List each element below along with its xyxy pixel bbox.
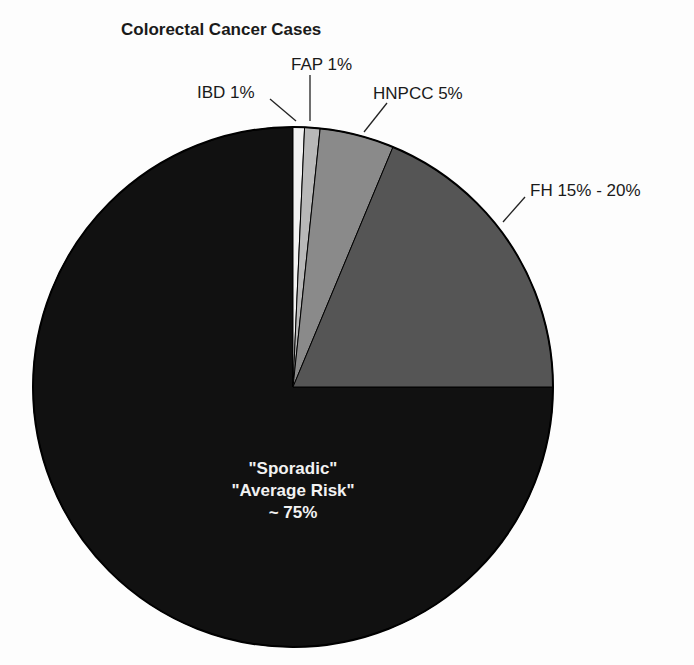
sporadic-line-2: "Average Risk" (193, 480, 393, 502)
sporadic-line-1: "Sporadic" (193, 458, 393, 480)
pie-chart (0, 0, 694, 665)
leader-ibd (270, 99, 296, 121)
label-fh: FH 15% - 20% (530, 181, 641, 201)
label-hnpcc: HNPCC 5% (373, 84, 463, 104)
label-fap: FAP 1% (291, 55, 352, 75)
sporadic-line-3: ~ 75% (193, 502, 393, 524)
leader-hnpcc (364, 103, 387, 132)
leader-fh (503, 197, 525, 222)
label-ibd: IBD 1% (197, 83, 255, 103)
sporadic-label: "Sporadic" "Average Risk" ~ 75% (193, 458, 393, 524)
